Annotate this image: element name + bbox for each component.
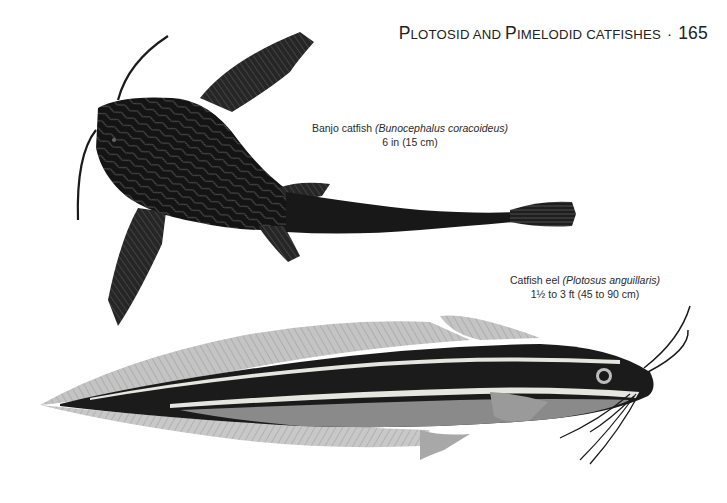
eel-common-name: Catfish eel (510, 274, 560, 286)
eel-scientific-name: (Plotosus anguillaris) (563, 274, 660, 286)
catfish-eel-illustration (0, 0, 727, 503)
book-page: PLOTOSID AND PIMELODID CATFISHES·165 (0, 0, 727, 503)
eel-size: 1½ to 3 ft (45 to 90 cm) (470, 287, 700, 301)
catfish-eel-caption: Catfish eel (Plotosus anguillaris) 1½ to… (470, 273, 700, 301)
